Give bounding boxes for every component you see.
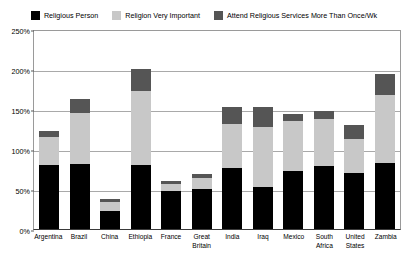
- bar-slot[interactable]: [34, 31, 65, 229]
- x-axis-category-label: France: [156, 233, 187, 266]
- bar-series-group: [34, 31, 400, 229]
- bar-segment[interactable]: [131, 91, 151, 165]
- bar-segment[interactable]: [375, 74, 395, 96]
- bar-segment[interactable]: [253, 187, 273, 229]
- bar-segment[interactable]: [100, 202, 120, 211]
- bar-slot[interactable]: [370, 31, 401, 229]
- bar-segment[interactable]: [375, 95, 395, 163]
- bar-slot[interactable]: [217, 31, 248, 229]
- bar-segment[interactable]: [39, 165, 59, 229]
- x-axis-category-label: China: [94, 233, 125, 266]
- x-axis-category-label: United States: [340, 233, 371, 266]
- stacked-bar[interactable]: [100, 199, 120, 229]
- stacked-bar[interactable]: [253, 107, 273, 229]
- bar-segment[interactable]: [344, 125, 364, 139]
- stacked-bar[interactable]: [314, 111, 334, 229]
- x-axis-category-label: South Africa: [309, 233, 340, 266]
- bar-segment[interactable]: [161, 191, 181, 229]
- bar-segment[interactable]: [344, 139, 364, 173]
- bar-slot[interactable]: [278, 31, 309, 229]
- x-axis-category-label: India: [217, 233, 248, 266]
- y-axis-tick-mark: [31, 231, 34, 232]
- legend-swatch-icon: [112, 11, 121, 20]
- bar-slot[interactable]: [248, 31, 279, 229]
- bar-segment[interactable]: [222, 168, 242, 229]
- x-axis-category-label: Brazil: [64, 233, 95, 266]
- y-axis-tick-label: 0%: [20, 227, 30, 236]
- bar-segment[interactable]: [70, 99, 90, 113]
- bar-segment[interactable]: [283, 114, 303, 121]
- x-axis-category-label: Great Britain: [186, 233, 217, 266]
- bar-slot[interactable]: [126, 31, 157, 229]
- bar-segment[interactable]: [70, 113, 90, 164]
- x-axis-category-label: Iraq: [248, 233, 279, 266]
- bar-segment[interactable]: [283, 121, 303, 171]
- y-axis-tick-label: 50%: [16, 187, 30, 196]
- bar-segment[interactable]: [192, 189, 212, 229]
- bar-segment[interactable]: [222, 124, 242, 168]
- stacked-bar[interactable]: [222, 107, 242, 229]
- bar-segment[interactable]: [314, 166, 334, 229]
- stacked-bar[interactable]: [70, 99, 90, 229]
- bar-segment[interactable]: [283, 171, 303, 229]
- y-axis-tick-label: 200%: [12, 67, 30, 76]
- bar-segment[interactable]: [253, 107, 273, 127]
- bar-segment[interactable]: [192, 178, 212, 189]
- y-axis-tick-label: 150%: [12, 107, 30, 116]
- bar-slot[interactable]: [339, 31, 370, 229]
- bar-segment[interactable]: [314, 111, 334, 119]
- x-axis-category-label: Zambia: [370, 233, 401, 266]
- stacked-bar[interactable]: [131, 69, 151, 229]
- plot-area: 0%50%100%150%200%250%: [33, 30, 401, 230]
- bar-segment[interactable]: [131, 165, 151, 229]
- x-axis-labels: ArgentinaBrazilChinaEthiopiaFranceGreat …: [33, 233, 401, 266]
- legend-label: Religious Person: [44, 11, 98, 20]
- x-axis-category-label: Ethiopia: [125, 233, 156, 266]
- stacked-bar[interactable]: [161, 181, 181, 229]
- bar-segment[interactable]: [253, 127, 273, 187]
- bar-slot[interactable]: [95, 31, 126, 229]
- bar-segment[interactable]: [131, 69, 151, 91]
- legend-entry[interactable]: Religious Person: [31, 11, 98, 20]
- bar-segment[interactable]: [344, 173, 364, 229]
- stacked-bar[interactable]: [344, 125, 364, 229]
- bar-slot[interactable]: [309, 31, 340, 229]
- bar-segment[interactable]: [100, 211, 120, 229]
- x-axis-category-label: Argentina: [33, 233, 64, 266]
- bar-slot[interactable]: [187, 31, 218, 229]
- stacked-bar[interactable]: [283, 114, 303, 229]
- legend-swatch-icon: [31, 11, 40, 20]
- bar-slot[interactable]: [65, 31, 96, 229]
- y-axis-tick-label: 250%: [12, 27, 30, 36]
- stacked-bar[interactable]: [39, 131, 59, 229]
- legend-entry[interactable]: Attend Religious Services More Than Once…: [214, 11, 377, 20]
- bar-segment[interactable]: [375, 163, 395, 229]
- legend-swatch-icon: [214, 11, 223, 20]
- bar-segment[interactable]: [39, 137, 59, 165]
- stacked-bar[interactable]: [375, 74, 395, 229]
- bar-slot[interactable]: [156, 31, 187, 229]
- legend-label: Religion Very Important: [125, 11, 200, 20]
- legend-entry[interactable]: Religion Very Important: [112, 11, 200, 20]
- legend-label: Attend Religious Services More Than Once…: [227, 11, 377, 20]
- bar-segment[interactable]: [222, 107, 242, 124]
- x-axis-category-label: Mexico: [278, 233, 309, 266]
- y-axis-tick-label: 100%: [12, 147, 30, 156]
- chart-legend: Religious PersonReligion Very ImportantA…: [0, 8, 408, 22]
- bar-segment[interactable]: [70, 164, 90, 229]
- bar-segment[interactable]: [314, 119, 334, 166]
- stacked-bar[interactable]: [192, 174, 212, 229]
